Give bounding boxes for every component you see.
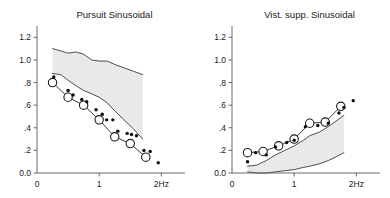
data-point-dot	[130, 133, 133, 136]
plot-title: Pursuit Sinusoidal	[76, 9, 152, 20]
data-point-dot	[246, 160, 249, 163]
x-tick-label: 0	[230, 179, 235, 189]
data-point-open-circle	[111, 133, 119, 141]
data-point-dot	[148, 150, 151, 153]
data-point-open-circle	[95, 116, 103, 124]
data-point-dot	[274, 145, 277, 148]
data-point-open-circle	[126, 139, 134, 147]
data-point-dot	[352, 99, 355, 102]
data-point-dot	[337, 111, 340, 114]
data-point-open-circle	[48, 78, 56, 86]
y-tick-label: 1.0	[214, 55, 226, 65]
y-tick-label: .2	[219, 145, 226, 155]
data-point-dot	[264, 153, 267, 156]
x-tick-label: 1	[97, 179, 102, 189]
data-point-dot	[254, 151, 257, 154]
data-point-dot	[116, 129, 119, 132]
data-point-dot	[125, 132, 128, 135]
data-point-dot	[342, 106, 345, 109]
y-tick-label: .6	[219, 100, 226, 110]
data-point-dot	[85, 100, 88, 103]
data-point-dot	[101, 113, 104, 116]
y-tick-label: .4	[219, 123, 226, 133]
y-tick-label: 1.2	[19, 32, 31, 42]
data-point-dot	[111, 118, 114, 121]
data-point-dot	[80, 98, 83, 101]
x-tick-label: 1	[292, 179, 297, 189]
data-point-open-circle	[243, 148, 251, 156]
y-tick-label: 0.0	[214, 168, 226, 178]
data-point-open-circle	[64, 93, 72, 101]
data-point-dot	[327, 122, 330, 125]
y-tick-label: 0.0	[19, 168, 31, 178]
x-tick-label: 2Hz	[349, 179, 364, 189]
data-point-open-circle	[142, 153, 150, 161]
y-tick-label: .4	[24, 123, 31, 133]
y-tick-label: .8	[24, 78, 31, 88]
data-point-dot	[157, 161, 160, 164]
data-point-dot	[94, 108, 97, 111]
data-point-dot	[316, 124, 319, 127]
data-point-dot	[52, 75, 55, 78]
data-point-dot	[135, 134, 138, 137]
data-point-dot	[142, 149, 145, 152]
chart-panel-vist-supp: Vist. supp. Sinusoidal0.0.2.4.6.81.01.20…	[195, 0, 390, 198]
figure-container: Pursuit Sinusoidal0.0.2.4.6.81.01.2012Hz…	[0, 0, 390, 198]
y-tick-label: .2	[24, 145, 31, 155]
y-tick-label: .8	[219, 78, 226, 88]
y-tick-label: 1.2	[214, 32, 226, 42]
chart-panel-pursuit: Pursuit Sinusoidal0.0.2.4.6.81.01.2012Hz	[0, 0, 195, 198]
data-point-dot	[304, 125, 307, 128]
data-point-dot	[71, 93, 74, 96]
x-tick-label: 2Hz	[154, 179, 169, 189]
data-point-dot	[285, 141, 288, 144]
data-point-dot	[66, 89, 69, 92]
data-point-dot	[292, 139, 295, 142]
y-tick-label: .6	[24, 100, 31, 110]
y-tick-label: 1.0	[19, 55, 31, 65]
x-tick-label: 0	[35, 179, 40, 189]
plot-title: Vist. supp. Sinusoidal	[264, 9, 355, 20]
plot-svg: Vist. supp. Sinusoidal0.0.2.4.6.81.01.20…	[195, 0, 390, 198]
data-point-dot	[105, 118, 108, 121]
plot-svg: Pursuit Sinusoidal0.0.2.4.6.81.01.2012Hz	[0, 0, 195, 198]
